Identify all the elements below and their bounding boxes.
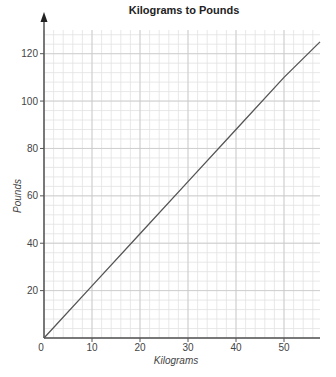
data-line [44,42,320,338]
line-chart: 0102030405020406080100120KilogramsPounds [0,0,336,377]
y-axis-label: Pounds [12,179,23,213]
y-tick-label: 120 [21,48,38,59]
y-tick-label: 80 [27,143,39,154]
y-axis-arrow-icon [41,12,48,22]
x-tick-label: 0 [38,342,44,353]
x-tick-label: 10 [86,342,98,353]
x-tick-label: 50 [278,342,290,353]
x-tick-label: 40 [230,342,242,353]
y-tick-label: 100 [21,96,38,107]
y-tick-label: 40 [27,238,39,249]
y-tick-label: 60 [27,190,39,201]
x-axis-label: Kilograms [154,355,198,366]
y-tick-label: 20 [27,285,39,296]
x-tick-label: 20 [134,342,146,353]
x-tick-label: 30 [182,342,194,353]
